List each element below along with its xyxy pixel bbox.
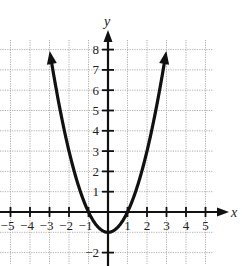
y-tick-label: 4 [93,123,100,138]
x-tick-label: −2 [59,218,73,233]
x-tick-label: 3 [163,218,170,233]
x-tick-label: 1 [124,218,131,233]
y-tick-label: 6 [93,83,100,98]
y-tick-label: 7 [93,62,100,77]
x-axis-label: x [230,205,238,220]
x-tick-label: 5 [202,218,209,233]
y-tick-label: 3 [93,144,100,159]
y-tick-label: 1 [93,184,100,199]
parabola-graph: −5−4−3−2−112345−212345678 x y [0,0,242,266]
y-axis-label: y [102,14,111,29]
x-tick-label: −5 [1,218,15,233]
x-axis-arrow-icon [217,208,229,217]
y-tick-label: 2 [93,164,100,179]
y-axis-arrow-icon [104,30,113,42]
x-tick-label: −1 [79,218,93,233]
curve-arrow-left-icon [47,51,57,65]
y-tick-label: 5 [93,103,100,118]
curve-arrow-right-icon [159,51,169,65]
x-tick-label: 4 [183,218,190,233]
x-tick-label: 2 [144,218,151,233]
y-tick-label: 8 [93,42,100,57]
x-tick-label: −3 [40,218,54,233]
y-tick-label: −2 [85,245,99,260]
x-tick-label: −4 [20,218,34,233]
